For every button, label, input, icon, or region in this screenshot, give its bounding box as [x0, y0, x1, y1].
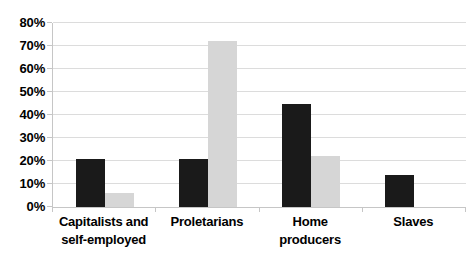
- category-label: Slaves: [362, 213, 465, 249]
- bar-black-series: [282, 104, 311, 208]
- y-axis-tick: [47, 206, 52, 207]
- y-axis-tick: [47, 114, 52, 115]
- category-label: Capitalists and self-employed: [52, 213, 155, 249]
- y-tick-label: 80%: [5, 15, 45, 31]
- bar-black-series: [179, 159, 208, 207]
- y-axis-tick: [47, 160, 52, 161]
- bar-gray-series: [208, 41, 237, 207]
- y-tick-label: 30%: [5, 130, 45, 146]
- y-axis-tick: [47, 45, 52, 46]
- category-label: Home producers: [259, 213, 362, 249]
- x-axis-tick: [259, 208, 260, 212]
- category-label: Proletarians: [155, 213, 258, 249]
- bar-black-series: [385, 175, 414, 207]
- y-tick-label: 40%: [5, 107, 45, 123]
- y-axis-tick: [47, 183, 52, 184]
- x-axis-tick: [52, 208, 53, 212]
- y-axis-tick: [47, 91, 52, 92]
- bar-group: [260, 23, 363, 207]
- y-axis-tick: [47, 68, 52, 69]
- bar-chart-figure: 0%10%20%30%40%50%60%70%80% Capitalists a…: [0, 0, 472, 267]
- bar-gray-series: [311, 156, 340, 207]
- bar-gray-series: [105, 193, 134, 207]
- y-tick-label: 70%: [5, 38, 45, 54]
- bar-black-series: [76, 159, 105, 207]
- y-axis-tick: [47, 137, 52, 138]
- y-tick-label: 0%: [5, 199, 45, 215]
- x-axis-labels: Capitalists and self-employedProletarian…: [52, 213, 465, 249]
- bar-groups: [53, 23, 466, 207]
- bar-group: [363, 23, 466, 207]
- y-tick-label: 50%: [5, 84, 45, 100]
- x-axis-tick: [155, 208, 156, 212]
- y-tick-label: 10%: [5, 176, 45, 192]
- bar-group: [53, 23, 156, 207]
- y-tick-label: 20%: [5, 153, 45, 169]
- y-axis-tick: [47, 22, 52, 23]
- plot-area: [52, 23, 466, 208]
- y-tick-label: 60%: [5, 61, 45, 77]
- x-axis-tick: [362, 208, 363, 212]
- bar-group: [156, 23, 259, 207]
- x-axis-tick: [465, 208, 466, 212]
